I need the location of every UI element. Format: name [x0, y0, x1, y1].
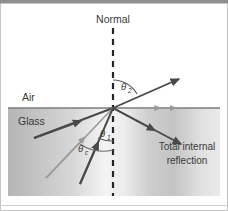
theta2-symbol: θ — [121, 81, 127, 92]
bottom-rule — [0, 205, 228, 206]
theta-c-symbol: θ — [78, 143, 84, 154]
normal-label: Normal — [96, 13, 130, 25]
total-internal-reflection-figure: Normal Air Glass Total internal reflecti… — [0, 0, 228, 211]
theta1-subscript: 1 — [107, 134, 111, 141]
total-internal-reflection-label-line2: reflection — [167, 155, 208, 166]
total-internal-reflection-label-line1: Total internal — [159, 141, 216, 152]
diagram-canvas: Normal Air Glass Total internal reflecti… — [0, 0, 228, 211]
air-label: Air — [22, 91, 35, 103]
top-rule — [0, 0, 228, 4]
theta1-symbol: θ — [100, 128, 106, 139]
glass-label: Glass — [18, 115, 45, 127]
theta2-subscript: 2 — [127, 87, 132, 94]
